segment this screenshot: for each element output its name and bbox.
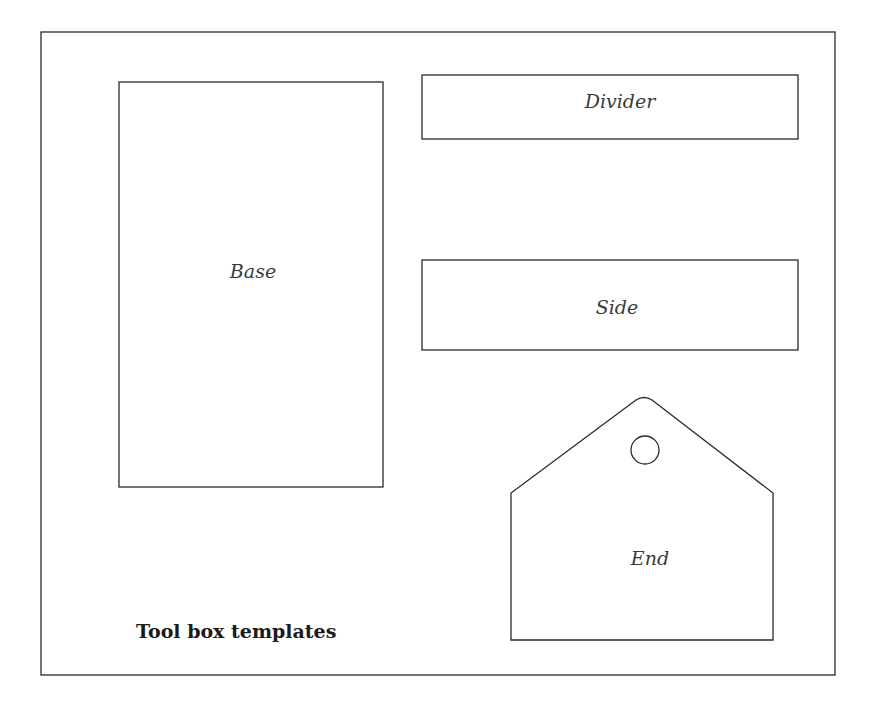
base-outline [119, 82, 383, 487]
template-base: Base [119, 82, 383, 487]
end-hole [631, 436, 659, 464]
diagram-canvas: Base Divider Side End Tool box templates [0, 0, 875, 702]
end-label: End [630, 547, 669, 569]
template-divider: Divider [422, 75, 798, 139]
template-side: Side [422, 260, 798, 350]
base-label: Base [229, 260, 276, 282]
side-label: Side [596, 296, 639, 318]
divider-label: Divider [584, 90, 658, 112]
diagram-caption: Tool box templates [136, 620, 336, 642]
